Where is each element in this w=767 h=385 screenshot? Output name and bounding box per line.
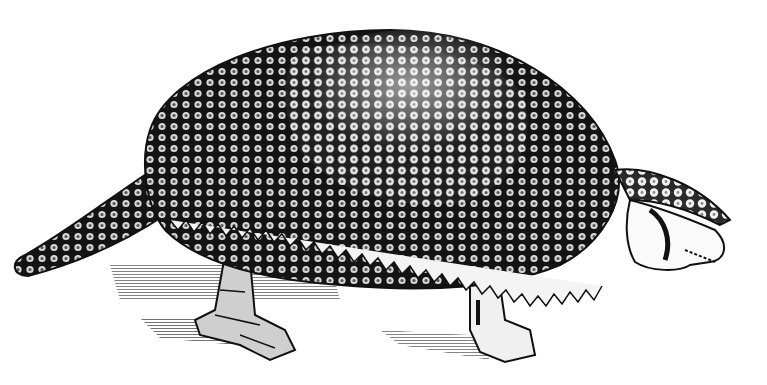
tail	[15, 165, 165, 276]
head	[615, 169, 730, 270]
glyptodon-illustration	[0, 0, 767, 385]
illustration-canvas	[0, 0, 767, 385]
